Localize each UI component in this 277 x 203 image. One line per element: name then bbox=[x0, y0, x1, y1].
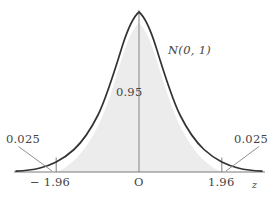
distribution-label: N(0, 1) bbox=[168, 45, 211, 57]
central-area-label: 0.95 bbox=[116, 87, 142, 99]
right-tail-leader-line bbox=[226, 147, 259, 172]
left-tick-label: − 1.96 bbox=[30, 177, 70, 189]
normal-distribution-figure: N(0, 1) 0.95 0.025 0.025 − 1.96 O 1.96 z bbox=[0, 0, 277, 203]
right-tail-probability-label: 0.025 bbox=[234, 134, 268, 146]
axis-label-z: z bbox=[252, 180, 257, 190]
left-tail-probability-label: 0.025 bbox=[6, 134, 40, 146]
right-tick-label: 1.96 bbox=[208, 177, 234, 189]
normal-curve-plot bbox=[0, 0, 277, 203]
origin-tick-label: O bbox=[134, 177, 143, 189]
left-tail-leader-line bbox=[19, 147, 53, 172]
